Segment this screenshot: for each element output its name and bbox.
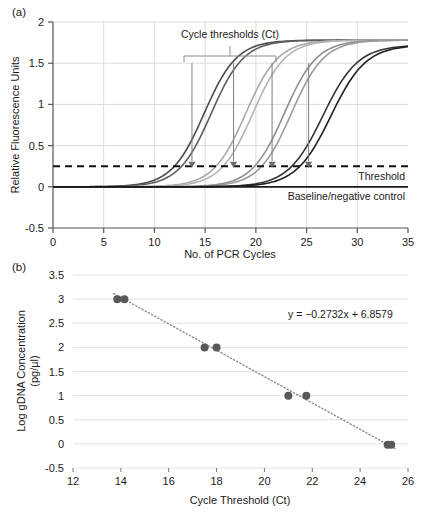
panel-b-xtick-20: 20 — [258, 475, 270, 487]
panel-a-y-axis-title: Relative Fluorescence Units — [9, 56, 21, 193]
figure-container: (a) — [0, 0, 428, 520]
panel-a: (a) — [0, 0, 428, 260]
panel-b-xtick-22: 22 — [306, 475, 318, 487]
panel-a-ytick-2: 2 — [38, 16, 44, 28]
panel-b-ytick-0p5: 0.5 — [49, 414, 64, 426]
panel-b-ytick-2: 2 — [58, 341, 64, 353]
panel-a-baseline-label: Baseline/negative control — [288, 190, 405, 202]
panel-b-x-axis-title: Cycle Threshold (Ct) — [190, 494, 291, 506]
panel-b-ytick-2p5: 2.5 — [49, 317, 64, 329]
scatter-point — [201, 343, 209, 351]
panel-a-xtick-30: 30 — [351, 236, 363, 248]
panel-b-xtick-16: 16 — [163, 475, 175, 487]
panel-a-xtick-25: 25 — [300, 236, 312, 248]
panel-b-xtick-24: 24 — [354, 475, 366, 487]
panel-b-xtick-26: 26 — [402, 475, 414, 487]
panel-a-svg: 2 1.5 1 0.5 0 -0.5 0 5 10 15 20 25 30 35… — [0, 0, 428, 260]
panel-a-x-ticks — [53, 228, 408, 233]
panel-a-plot: 2 1.5 1 0.5 0 -0.5 0 5 10 15 20 25 30 35… — [0, 0, 428, 260]
panel-b-ytick-1: 1 — [58, 390, 64, 402]
panel-b-xtick-18: 18 — [210, 475, 222, 487]
panel-b-ytick-neg0p5: -0.5 — [45, 462, 64, 474]
panel-b-xtick-12: 12 — [67, 475, 79, 487]
panel-a-ytick-0: 0 — [38, 181, 44, 193]
panel-a-ytick-0p5: 0.5 — [29, 140, 44, 152]
panel-b-svg: 3.5 3 2.5 2 1.5 1 0.5 0 -0.5 12 14 16 18… — [0, 255, 428, 520]
panel-a-xtick-0: 0 — [50, 236, 56, 248]
panel-b-ytick-3p5: 3.5 — [49, 269, 64, 281]
panel-b-ytick-1p5: 1.5 — [49, 366, 64, 378]
panel-b-ytick-0: 0 — [58, 438, 64, 450]
panel-a-xtick-10: 10 — [148, 236, 160, 248]
panel-a-xtick-15: 15 — [199, 236, 211, 248]
panel-a-y-ticks — [48, 22, 53, 228]
scatter-point — [284, 392, 292, 400]
panel-b-equation-label: y = −0.2732x + 6.8579 — [288, 308, 393, 320]
scatter-point — [213, 343, 221, 351]
panel-a-ytick-neg0p5: -0.5 — [25, 222, 44, 234]
scatter-point — [302, 392, 310, 400]
panel-a-cycle-thresholds-label: Cycle thresholds (Ct) — [181, 28, 279, 40]
panel-b-xtick-14: 14 — [115, 475, 127, 487]
scatter-point — [387, 441, 395, 449]
panel-b-y-axis-title-line2: (pg/µl) — [28, 355, 40, 386]
panel-a-xtick-5: 5 — [101, 236, 107, 248]
scatter-point — [113, 295, 121, 303]
panel-b: (b) — [0, 255, 428, 520]
panel-a-threshold-label: Threshold — [358, 170, 405, 182]
panel-a-xtick-35: 35 — [402, 236, 414, 248]
panel-a-xtick-20: 20 — [250, 236, 262, 248]
panel-b-x-ticks — [73, 468, 408, 472]
panel-b-ytick-3: 3 — [58, 293, 64, 305]
panel-b-plot: 3.5 3 2.5 2 1.5 1 0.5 0 -0.5 12 14 16 18… — [0, 255, 428, 520]
panel-a-ytick-1p5: 1.5 — [29, 57, 44, 69]
panel-a-ytick-1: 1 — [38, 98, 44, 110]
panel-b-y-axis-title-line1: Log gDNA Concentration — [15, 310, 27, 432]
scatter-point — [120, 295, 128, 303]
